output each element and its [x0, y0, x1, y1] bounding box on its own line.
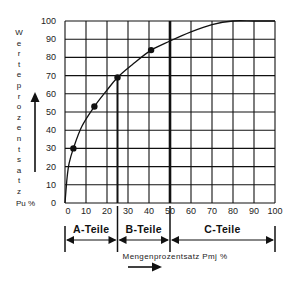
arrow-right-icon — [161, 236, 169, 244]
y-tick-label: 50 — [46, 107, 56, 117]
arrow-left-icon — [66, 236, 74, 244]
y-tick-label: 90 — [46, 34, 56, 44]
x-tick-label: 100 — [267, 206, 282, 216]
x-tick-label: 40 — [144, 206, 154, 216]
y-label-unit: Pu % — [16, 199, 35, 208]
y-tick-label: 40 — [46, 125, 56, 135]
y-label-letter: a — [17, 166, 22, 175]
y-label-letter: n — [17, 134, 21, 143]
y-tick-label: 30 — [46, 143, 56, 153]
x-tick-label: 90 — [249, 206, 259, 216]
segment-label: A-Teile — [73, 223, 109, 235]
x-axis-right-arrow-icon — [128, 263, 162, 272]
y-label-letter: t — [18, 176, 21, 185]
y-axis-up-arrow-icon — [31, 92, 40, 172]
y-label-letter: t — [18, 145, 21, 154]
data-point — [91, 103, 97, 109]
arrow-right-icon — [109, 236, 117, 244]
x-tick-label: 0 — [65, 206, 70, 216]
x-tick-label: 70 — [207, 206, 217, 216]
x-tick-label: 10 — [81, 206, 91, 216]
data-point — [114, 74, 120, 80]
data-markers — [70, 47, 154, 152]
y-label-letter: z — [17, 187, 21, 196]
y-tick-label: 100 — [41, 16, 56, 26]
y-axis-ticks: 0102030405060708090100 — [41, 16, 56, 208]
y-tick-label: 80 — [46, 52, 56, 62]
x-tick-label: 20 — [102, 206, 112, 216]
y-tick-label: 70 — [46, 71, 56, 81]
y-tick-label: 60 — [46, 89, 56, 99]
y-label-letter: s — [17, 155, 21, 164]
y-tick-label: 0 — [51, 198, 56, 208]
x-axis-label: Mengenprozentsatz Pmj % — [123, 252, 228, 261]
y-label-letter: o — [17, 102, 22, 111]
y-label-letter: z — [17, 113, 21, 122]
data-point — [70, 145, 76, 151]
y-axis-label: WerteprozentsatzPu % — [15, 28, 35, 208]
y-label-letter: e — [17, 123, 22, 132]
arrow-left-icon — [171, 236, 179, 244]
x-tick-label: 60 — [186, 206, 196, 216]
y-label-letter: r — [18, 49, 21, 58]
y-label-letter: W — [15, 28, 23, 37]
segment-label: C-Teile — [204, 223, 240, 235]
y-label-letter: r — [18, 92, 21, 101]
x-axis-ticks: 0102030405060708090100 — [65, 206, 282, 216]
y-tick-label: 20 — [46, 162, 56, 172]
y-label-letter: p — [17, 81, 22, 90]
y-label-letter: e — [17, 39, 22, 48]
abc-segment-brackets: A-TeileB-TeileC-Teile — [65, 206, 275, 252]
arrow-left-icon — [119, 236, 127, 244]
x-tick-label: 80 — [228, 206, 238, 216]
segment-label: B-Teile — [126, 223, 162, 235]
x-tick-label: 30 — [123, 206, 133, 216]
y-label-letter: e — [17, 70, 22, 79]
arrow-right-icon — [266, 236, 274, 244]
y-tick-label: 10 — [46, 180, 56, 190]
data-point — [148, 47, 154, 53]
abc-analysis-chart: 0102030405060708090100 01020304050607080… — [0, 0, 301, 284]
y-label-letter: t — [18, 60, 21, 69]
